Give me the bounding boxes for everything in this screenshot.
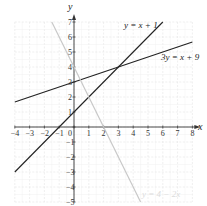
y-axis-label: y [67,1,73,12]
svg-text:−3: −3 [66,168,75,177]
svg-text:4: 4 [68,63,72,72]
grid [15,22,193,202]
svg-text:2: 2 [68,93,72,102]
equation-label-3: y = 4 − 2x [141,189,180,199]
svg-text:−1: −1 [66,138,75,147]
equation-label-2: 3y = x + 9 [160,52,200,62]
svg-text:5: 5 [146,129,150,138]
svg-text:−5: −5 [66,198,75,206]
svg-text:3: 3 [68,78,72,87]
svg-text:7: 7 [68,18,72,27]
equation-label-1: y = x + 1 [123,20,158,30]
svg-text:4: 4 [131,129,135,138]
svg-text:1: 1 [87,129,91,138]
svg-text:6: 6 [161,129,165,138]
svg-text:2: 2 [102,129,106,138]
svg-text:−4: −4 [11,129,20,138]
svg-text:8: 8 [190,129,194,138]
svg-text:−4: −4 [66,183,75,192]
svg-text:−2: −2 [66,153,75,162]
svg-text:7: 7 [176,129,180,138]
svg-text:1: 1 [68,108,72,117]
svg-text:0: 0 [68,129,72,138]
svg-text:3: 3 [116,129,120,138]
svg-text:5: 5 [68,48,72,57]
svg-text:−2: −2 [40,129,49,138]
x-axis-label: x [197,121,203,132]
svg-text:6: 6 [68,33,72,42]
graph: −4−3−2−10123456787654321−1−2−3−4−5 x y y… [0,0,207,206]
svg-text:−1: −1 [55,129,64,138]
axes [15,14,201,202]
svg-text:−3: −3 [26,129,35,138]
